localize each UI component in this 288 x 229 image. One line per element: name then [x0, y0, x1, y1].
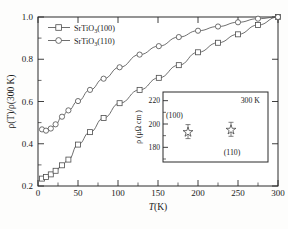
- y-tick-labels: 0.2 0.4 0.6 0.8 1.0: [22, 12, 34, 191]
- data-marker-circle: [215, 24, 220, 29]
- data-marker-square: [117, 101, 122, 106]
- inset-point-label-100: (100): [166, 111, 183, 120]
- x-axis-title: T(K): [149, 202, 168, 213]
- x-tick-label: 100: [111, 188, 125, 198]
- data-marker-square: [196, 50, 201, 55]
- data-marker-square: [216, 40, 221, 45]
- data-marker-circle: [137, 52, 142, 57]
- data-marker-circle: [53, 122, 58, 127]
- data-marker-circle: [75, 98, 80, 103]
- inset-axes: 180 200 220 ρ (μΩ cm ) 300 K (100) (11: [134, 92, 268, 162]
- data-marker-circle: [176, 34, 181, 39]
- data-marker-circle: [117, 65, 122, 70]
- x-tick-label: 150: [151, 188, 165, 198]
- inset-temperature-annotation: 300 K: [241, 96, 261, 105]
- x-tick-labels: 0 50 100 150 200 250 300: [36, 188, 286, 198]
- data-marker-square: [44, 174, 49, 179]
- data-marker-square: [66, 157, 71, 162]
- legend-marker-circle: [56, 38, 62, 44]
- y-tick-label: 0.2: [22, 181, 33, 191]
- inset-y-tick-label: 220: [149, 96, 161, 105]
- chart-svg: 0 50 100 150 200 250 300 0.2 0.4 0.6 0.8…: [0, 0, 288, 229]
- data-marker-circle: [59, 114, 64, 119]
- svg-text:T(K): T(K): [149, 202, 168, 213]
- y-tick-label: 0.4: [22, 139, 34, 149]
- data-marker-circle: [255, 16, 260, 21]
- data-marker-circle: [156, 44, 161, 49]
- inset-y-tick-label: 200: [149, 120, 161, 129]
- data-marker-square: [176, 63, 181, 68]
- data-marker-square: [88, 130, 93, 135]
- figure-container: 0 50 100 150 200 250 300 0.2 0.4 0.6 0.8…: [0, 0, 288, 229]
- inset-y-tick-labels: 180 200 220: [149, 96, 161, 152]
- data-marker-square: [48, 172, 53, 177]
- data-marker-square: [236, 32, 241, 37]
- inset-point-label-110: (110): [224, 148, 241, 157]
- data-marker-square: [76, 142, 81, 147]
- data-marker-circle: [48, 126, 53, 131]
- data-marker-circle: [195, 28, 200, 33]
- data-marker-square: [256, 23, 261, 28]
- y-axis-title-text: ρ(T)/ρ(300 K): [6, 74, 17, 128]
- y-tick-label: 0.6: [22, 97, 34, 107]
- x-tick-label: 50: [74, 188, 84, 198]
- data-marker-circle: [235, 20, 240, 25]
- data-marker-square: [156, 75, 161, 80]
- data-marker-square: [53, 168, 58, 173]
- inset-y-axis-title: ρ (μΩ cm ): [134, 110, 143, 144]
- y-tick-label: 0.8: [22, 54, 34, 64]
- inset-y-tick-label: 180: [149, 143, 161, 152]
- y-axis-title: ρ(T)/ρ(300 K): [6, 74, 17, 128]
- data-marker-circle: [66, 108, 71, 113]
- legend-label-pre: SrTiO: [74, 37, 94, 46]
- data-marker-square: [137, 87, 142, 92]
- x-tick-label: 200: [191, 188, 205, 198]
- data-marker-square: [60, 163, 65, 168]
- y-tick-label: 1.0: [22, 12, 34, 22]
- legend-label-pre: SrTiO: [74, 24, 94, 33]
- legend-label-post: (100): [97, 24, 115, 33]
- data-marker-circle: [87, 87, 92, 92]
- legend-marker-square: [56, 25, 62, 31]
- data-marker-square: [101, 115, 106, 120]
- x-tick-label: 300: [271, 188, 285, 198]
- data-marker-circle: [275, 14, 280, 19]
- data-marker-circle: [101, 76, 106, 81]
- x-tick-label: 250: [231, 188, 245, 198]
- legend-label-post: (110): [97, 37, 115, 46]
- x-axis-title-unit: (K): [154, 202, 167, 213]
- x-tick-label: 0: [36, 188, 41, 198]
